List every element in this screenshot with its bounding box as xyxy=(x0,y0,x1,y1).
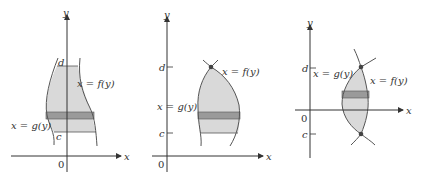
d-label: d xyxy=(58,57,64,68)
c-label: c xyxy=(302,129,308,140)
g-label: x = g(y) xyxy=(313,68,353,79)
f-label: x = f(y) xyxy=(370,75,408,86)
g-label: x = g(y) xyxy=(11,120,51,131)
y-axis-label: y xyxy=(62,7,69,18)
c-label: c xyxy=(56,131,62,142)
d-label: d xyxy=(159,62,165,73)
x-axis-label: x xyxy=(266,151,272,162)
y-axis-label: y xyxy=(306,17,313,28)
shaded-region xyxy=(47,66,96,132)
intersection-point xyxy=(209,65,214,70)
intersection-point-top xyxy=(359,65,364,70)
c-label: c xyxy=(159,128,165,139)
horizontal-strip xyxy=(198,112,240,119)
panel-3: y x 0 d c x = f(y) x = g(y) xyxy=(295,17,412,158)
intersection-point-bottom xyxy=(359,132,364,137)
origin-label: 0 xyxy=(301,113,307,124)
g-label: x = g(y) xyxy=(157,101,197,112)
f-label: x = f(y) xyxy=(222,66,260,77)
panel-2: y x 0 d c x = f(y) x = g(y) xyxy=(152,9,272,172)
figure-region-between-curves: y x 0 d c x = f(y) x = g(y) y x 0 d c x … xyxy=(0,0,421,181)
y-axis-label: y xyxy=(163,9,170,20)
d-label: d xyxy=(302,63,308,74)
horizontal-strip xyxy=(342,91,369,98)
horizontal-strip xyxy=(46,112,94,119)
panel-1: y x 0 d c x = f(y) x = g(y) xyxy=(11,7,130,172)
x-axis-label: x xyxy=(124,151,130,162)
origin-label: 0 xyxy=(158,159,164,170)
x-axis-label: x xyxy=(406,105,412,116)
origin-label: 0 xyxy=(58,159,64,170)
f-label: x = f(y) xyxy=(77,78,115,89)
